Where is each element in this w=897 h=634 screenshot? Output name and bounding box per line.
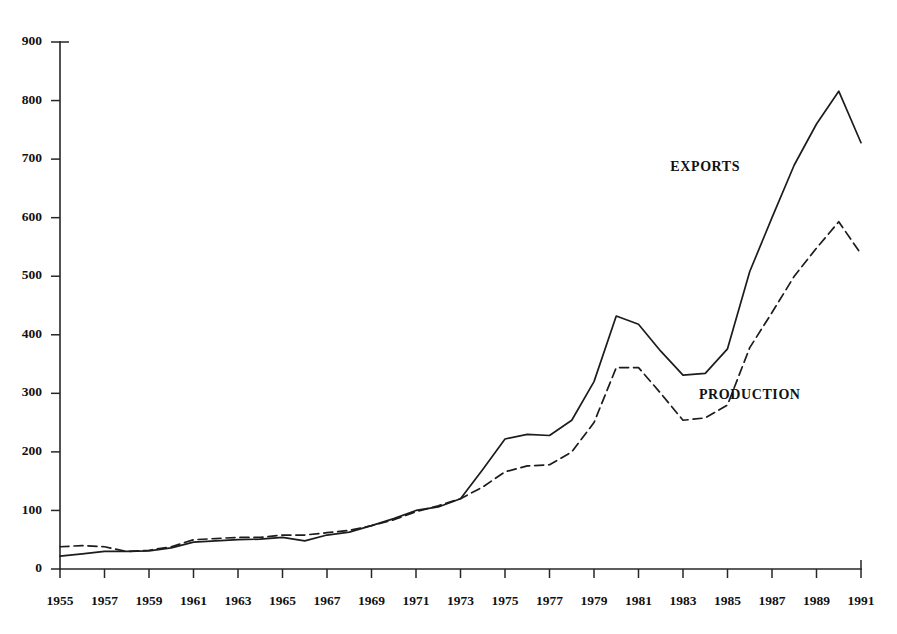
y-tick-label-100: 100	[22, 502, 43, 517]
y-tick-label-800: 800	[22, 92, 43, 107]
series-label-exports: EXPORTS	[670, 159, 740, 174]
x-tick-label-1965: 1965	[269, 593, 296, 608]
x-tick-label-1979: 1979	[581, 593, 608, 608]
x-tick-label-1989: 1989	[803, 593, 830, 608]
x-tick-label-1961: 1961	[180, 593, 207, 608]
series-line-exports	[60, 91, 861, 556]
series-label-production: PRODUCTION	[699, 387, 801, 402]
x-tick-label-1969: 1969	[358, 593, 385, 608]
x-tick-label-1967: 1967	[314, 593, 341, 608]
y-tick-label-400: 400	[22, 326, 43, 341]
x-tick-label-1991: 1991	[848, 593, 875, 608]
x-tick-label-1987: 1987	[759, 593, 786, 608]
y-tick-label-600: 600	[22, 209, 43, 224]
x-tick-label-1977: 1977	[536, 593, 563, 608]
x-tick-label-1963: 1963	[225, 593, 252, 608]
y-tick-label-0: 0	[35, 560, 42, 575]
x-tick-label-1955: 1955	[47, 593, 74, 608]
x-tick-label-1973: 1973	[447, 593, 474, 608]
x-tick-label-1975: 1975	[492, 593, 519, 608]
x-tick-label-1959: 1959	[136, 593, 163, 608]
x-axis-ticks: 1955195719591961196319651967196919711973…	[47, 569, 875, 608]
x-tick-label-1981: 1981	[625, 593, 652, 608]
x-tick-label-1957: 1957	[91, 593, 118, 608]
x-tick-label-1985: 1985	[714, 593, 741, 608]
x-tick-label-1983: 1983	[670, 593, 697, 608]
y-tick-label-200: 200	[22, 443, 43, 458]
y-axis-ticks: 0100200300400500600700800900	[22, 33, 60, 575]
y-tick-label-500: 500	[22, 267, 43, 282]
x-tick-label-1971: 1971	[403, 593, 430, 608]
y-tick-label-300: 300	[22, 384, 43, 399]
y-tick-label-900: 900	[22, 33, 43, 48]
data-series-group	[60, 91, 861, 556]
chart-root: 0100200300400500600700800900 19551957195…	[0, 0, 897, 634]
y-tick-label-700: 700	[22, 150, 43, 165]
line-chart: 0100200300400500600700800900 19551957195…	[0, 0, 897, 634]
